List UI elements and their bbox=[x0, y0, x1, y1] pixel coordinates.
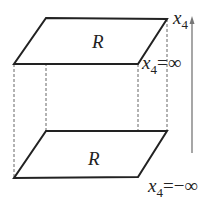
top-boundary-label: x4=∞ bbox=[141, 52, 181, 77]
axis-label: x4 bbox=[172, 7, 188, 32]
x4-axis bbox=[190, 16, 195, 153]
diagram-svg: R R x4 x4=∞ x4=−∞ bbox=[0, 0, 222, 204]
top-plane-label: R bbox=[91, 31, 104, 52]
bottom-plane-label: R bbox=[87, 148, 100, 169]
diagram-canvas: R R x4 x4=∞ x4=−∞ bbox=[0, 0, 222, 204]
bottom-boundary-label: x4=−∞ bbox=[147, 175, 198, 200]
arrow-up-icon bbox=[190, 16, 195, 24]
